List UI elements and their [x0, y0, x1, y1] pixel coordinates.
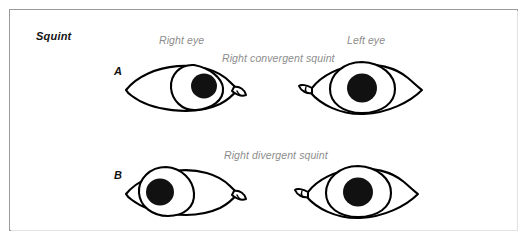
page-title: Squint — [36, 31, 71, 42]
column-heading-left-eye: Left eye — [347, 35, 385, 46]
row-letter-b: B — [114, 170, 122, 181]
squint-figure: Squint Right eye Left eye Right converge… — [0, 0, 528, 241]
eye-icon-a-right — [122, 60, 248, 116]
row-letter-a: A — [114, 66, 122, 77]
eye-icon-b-right — [122, 164, 248, 222]
row-caption-b: Right divergent squint — [224, 150, 328, 161]
column-heading-right-eye: Right eye — [159, 35, 204, 46]
figure-panel: Squint Right eye Left eye Right converge… — [9, 9, 518, 231]
eye-icon-a-left — [298, 58, 426, 118]
eye-icon-b-left — [294, 162, 422, 222]
